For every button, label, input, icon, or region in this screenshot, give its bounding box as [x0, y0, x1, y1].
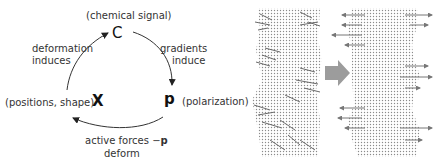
cell-tissue-after: [332, 8, 432, 157]
simulation-figure: [0, 0, 447, 165]
cell-tissue-before: [252, 8, 322, 157]
right-arrow: [325, 60, 350, 86]
